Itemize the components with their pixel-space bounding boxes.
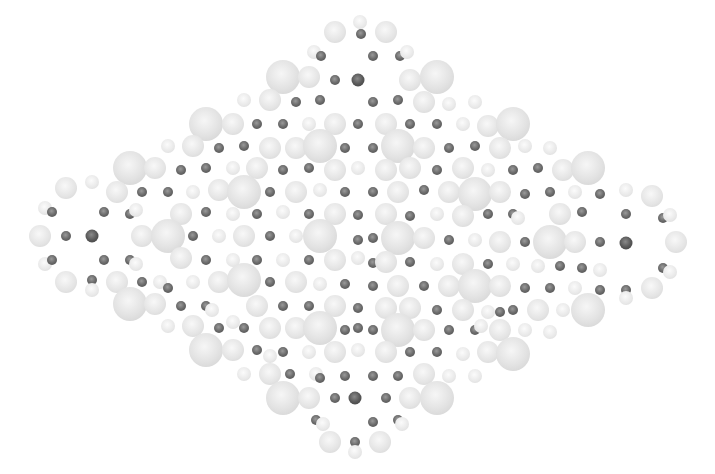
atom-big xyxy=(303,311,337,345)
atom-dark xyxy=(47,207,57,217)
atom-dark xyxy=(508,305,518,315)
atom-dark xyxy=(201,255,211,265)
atom-small xyxy=(468,369,482,383)
atom-small xyxy=(619,183,633,197)
atom-dark xyxy=(285,369,295,379)
atom-dark xyxy=(304,301,314,311)
atom-dark xyxy=(393,95,403,105)
atom-core xyxy=(86,230,99,243)
atom-dark xyxy=(405,119,415,129)
atom-dark xyxy=(61,231,71,241)
atom-small xyxy=(226,161,240,175)
atom-small xyxy=(263,349,277,363)
atom-small xyxy=(353,15,367,29)
atom-small xyxy=(556,303,570,317)
atom-dark xyxy=(368,97,378,107)
atom-dark xyxy=(163,187,173,197)
atom-small xyxy=(430,207,444,221)
atom-dark xyxy=(508,165,518,175)
atom-dark xyxy=(520,237,530,247)
atom-med xyxy=(527,299,549,321)
atom-dark xyxy=(595,285,605,295)
atom-dark xyxy=(555,261,565,271)
atom-dark xyxy=(444,235,454,245)
atom-small xyxy=(663,208,677,222)
atom-dark xyxy=(99,207,109,217)
atom-small xyxy=(205,303,219,317)
atom-small xyxy=(518,139,532,153)
atom-dark xyxy=(353,235,363,245)
atom-dark xyxy=(432,119,442,129)
atom-med xyxy=(665,231,687,253)
atom-med xyxy=(259,89,281,111)
atom-med xyxy=(259,317,281,339)
atom-big xyxy=(496,337,530,371)
atom-small xyxy=(511,211,525,225)
atom-med xyxy=(144,293,166,315)
atom-med xyxy=(55,177,77,199)
atom-small xyxy=(351,251,365,265)
atom-dark xyxy=(495,307,505,317)
atom-med xyxy=(369,431,391,453)
atom-med xyxy=(641,277,663,299)
atom-med xyxy=(285,181,307,203)
atom-small xyxy=(468,233,482,247)
atom-small xyxy=(518,323,532,337)
atom-med xyxy=(641,185,663,207)
atom-dark xyxy=(405,257,415,267)
atom-small xyxy=(313,277,327,291)
atom-dark xyxy=(340,143,350,153)
atom-med xyxy=(399,69,421,91)
atom-small xyxy=(289,229,303,243)
atom-dark xyxy=(545,187,555,197)
atom-big xyxy=(303,219,337,253)
atom-big xyxy=(420,381,454,415)
atom-small xyxy=(531,259,545,273)
atom-dark xyxy=(278,301,288,311)
atom-small xyxy=(481,305,495,319)
atom-big xyxy=(381,221,415,255)
atom-small xyxy=(186,185,200,199)
atom-dark xyxy=(393,371,403,381)
atom-dark xyxy=(419,185,429,195)
atom-med xyxy=(438,181,460,203)
atom-med xyxy=(549,203,571,225)
atom-small xyxy=(442,369,456,383)
atom-dark xyxy=(368,143,378,153)
atom-med xyxy=(413,319,435,341)
atom-dark xyxy=(520,283,530,293)
atom-dark xyxy=(405,347,415,357)
atom-dark xyxy=(368,325,378,335)
atom-small xyxy=(161,319,175,333)
atom-med xyxy=(298,66,320,88)
atom-med xyxy=(438,275,460,297)
atom-small xyxy=(619,291,633,305)
atom-dark xyxy=(444,325,454,335)
atom-dark xyxy=(368,281,378,291)
atom-small xyxy=(212,229,226,243)
atom-dark xyxy=(330,393,340,403)
atom-dark xyxy=(353,303,363,313)
atom-dark xyxy=(595,189,605,199)
atom-small xyxy=(474,319,488,333)
atom-dark xyxy=(577,263,587,273)
atom-dark xyxy=(214,323,224,333)
atom-small xyxy=(593,263,607,277)
atom-dark xyxy=(315,95,325,105)
atom-med xyxy=(170,247,192,269)
atom-med xyxy=(489,231,511,253)
atom-small xyxy=(129,203,143,217)
atom-small xyxy=(316,417,330,431)
atom-dark xyxy=(368,51,378,61)
atom-dark xyxy=(368,417,378,427)
atom-dark xyxy=(330,75,340,85)
atom-dark xyxy=(214,143,224,153)
atom-dark xyxy=(432,347,442,357)
atom-dark xyxy=(368,187,378,197)
atom-big xyxy=(533,225,567,259)
atom-dark xyxy=(444,143,454,153)
atom-med xyxy=(233,225,255,247)
atom-dark xyxy=(201,207,211,217)
atom-med xyxy=(144,157,166,179)
atom-dark xyxy=(470,141,480,151)
